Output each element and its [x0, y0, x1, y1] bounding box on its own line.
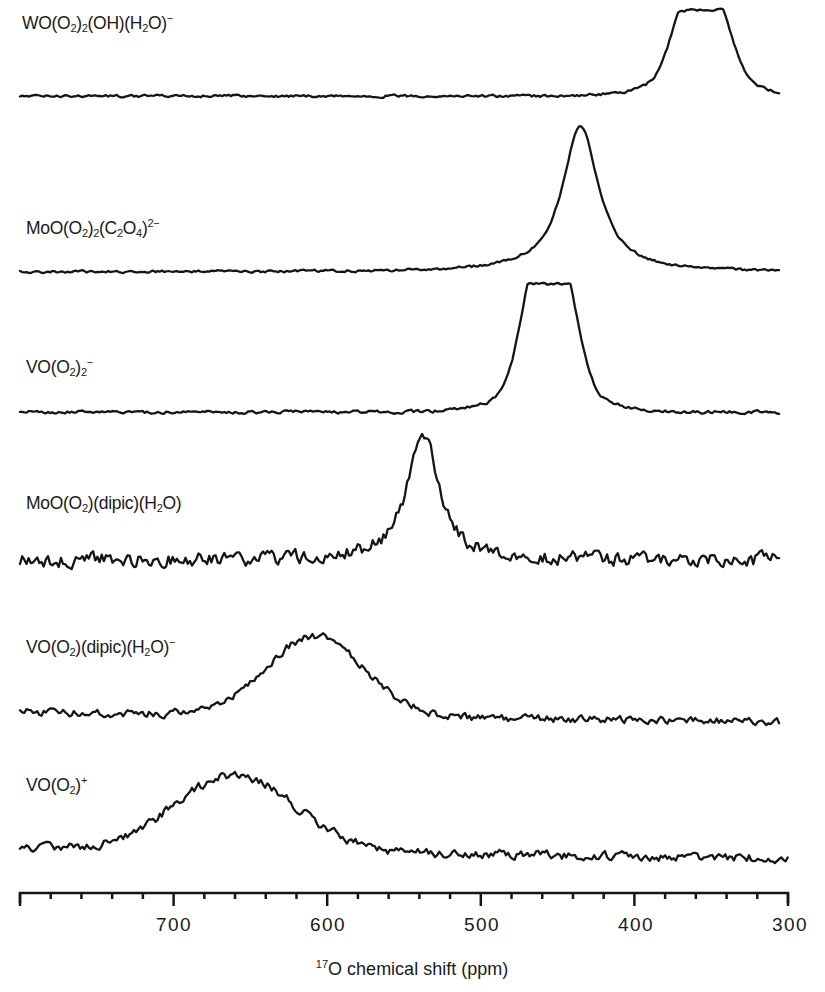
x-axis-title: 17O chemical shift (ppm) — [316, 958, 508, 980]
spectra-traces — [20, 9, 788, 863]
x-tick-label-400: 400 — [618, 914, 654, 936]
spectrum-trace — [20, 772, 788, 863]
trace-label-wo-o2-2-oh-h2o: WO(O2)2(OH)(H2O)− — [22, 12, 173, 34]
x-tick-label-300: 300 — [772, 914, 808, 936]
x-axis-line — [20, 893, 788, 903]
x-axis-title-isotope: 17 — [316, 958, 328, 970]
x-tick-label-600: 600 — [310, 914, 346, 936]
x-tick-label-500: 500 — [464, 914, 500, 936]
trace-label-moo-o2-dipic-h2o: MoO(O2)(dipic)(H2O) — [26, 493, 181, 514]
trace-label-vo-o2-plus: VO(O2)+ — [26, 774, 87, 796]
trace-label-vo-o2-dipic-h2o: VO(O2)(dipic)(H2O)− — [26, 636, 175, 658]
spectrum-trace — [20, 283, 779, 414]
spectrum-trace — [20, 126, 779, 273]
trace-label-moo-o2-2-c2o4: MoO(O2)2(C2O4)2− — [26, 217, 159, 239]
x-axis — [20, 893, 788, 906]
x-tick-label-700: 700 — [156, 914, 192, 936]
x-axis-title-text: O chemical shift (ppm) — [328, 959, 508, 979]
trace-label-vo-o2-2: VO(O2)2− — [26, 356, 93, 378]
